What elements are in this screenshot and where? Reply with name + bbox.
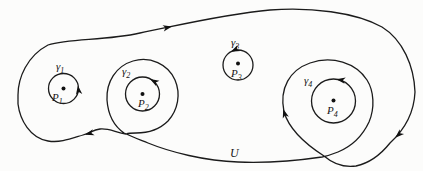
p4-point [332, 99, 336, 103]
p4-loop-up-arrow-icon [280, 108, 289, 118]
region-homology-diagram: γ1 γ2 γ3 γ4 P1 P2 P3 P4 U [0, 0, 423, 171]
outer-curve-top-arrow-icon [163, 23, 173, 31]
p1-point [62, 87, 66, 91]
gamma1-label: γ1 [56, 60, 64, 75]
gamma2-arrow-icon [148, 76, 159, 86]
gamma2-label: γ2 [122, 65, 130, 80]
p1-label: P1 [51, 91, 63, 106]
p3-point [236, 62, 240, 66]
p2-point [141, 92, 145, 96]
figure-container: γ1 γ2 γ3 γ4 P1 P2 P3 P4 U [0, 0, 423, 171]
p4-label: P4 [326, 104, 338, 119]
gamma3-label: γ3 [231, 36, 239, 51]
gamma4-label: γ4 [304, 74, 312, 89]
region-label: U [230, 146, 240, 160]
p2-label: P2 [137, 97, 149, 112]
